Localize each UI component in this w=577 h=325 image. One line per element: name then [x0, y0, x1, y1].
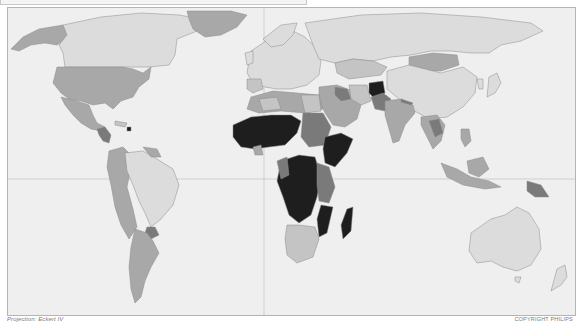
- region-caribbean: [115, 121, 127, 127]
- region-kazakhstan: [335, 59, 387, 79]
- region-borneo: [467, 157, 489, 177]
- region-central-america: [97, 127, 111, 143]
- top-legend-box: [0, 0, 307, 5]
- region-horn-of-africa: [323, 133, 353, 167]
- region-japan: [487, 73, 501, 97]
- region-new-zealand: [551, 265, 567, 291]
- region-india: [385, 99, 415, 143]
- region-greenland: [187, 11, 247, 37]
- region-mozambique: [317, 205, 333, 237]
- region-korea: [477, 79, 483, 89]
- world-map: [7, 7, 576, 316]
- region-haiti: [127, 127, 131, 131]
- copyright-notice: COPYRIGHT PHILIPS: [514, 316, 573, 322]
- region-papua-new-guinea: [527, 181, 549, 197]
- region-east-africa: [317, 163, 335, 203]
- projection-caption: Projection: Eckert IV: [7, 316, 63, 322]
- region-australia: [469, 207, 541, 271]
- region-southern-africa: [285, 225, 319, 263]
- map-canvas: [8, 8, 575, 315]
- region-madagascar: [341, 207, 353, 239]
- region-canada: [59, 13, 201, 67]
- region-algeria: [259, 97, 281, 111]
- region-iberia: [247, 79, 263, 93]
- region-uk: [245, 51, 253, 65]
- region-tasmania: [515, 277, 521, 283]
- region-sahel-west-africa: [233, 115, 301, 149]
- region-philippines: [461, 129, 471, 147]
- region-argentina: [129, 229, 159, 303]
- region-ghana: [253, 145, 263, 155]
